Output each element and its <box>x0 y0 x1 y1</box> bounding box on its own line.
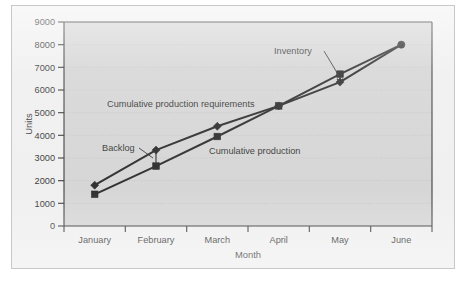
annotation-inventory: Inventory <box>274 46 312 56</box>
x-tick-label: January <box>78 235 111 245</box>
figure-card: 0 1000 2000 3000 4000 5000 6000 7000 800… <box>11 5 455 269</box>
annotation-cumulative-production: Cumulative production <box>209 146 300 156</box>
y-axis-tick-labels: 0 1000 2000 3000 4000 5000 6000 7000 800… <box>35 17 55 231</box>
y-tick-label: 0 <box>50 221 55 231</box>
y-axis-title: Units <box>23 113 34 135</box>
y-tick-label: 1000 <box>35 199 55 209</box>
chart-canvas: 0 1000 2000 3000 4000 5000 6000 7000 800… <box>12 6 456 270</box>
y-axis-ticks <box>58 22 64 226</box>
line-chart: 0 1000 2000 3000 4000 5000 6000 7000 800… <box>12 6 456 270</box>
plot-area-background <box>64 22 432 226</box>
x-axis-tick-labels: January February March April May June <box>78 235 411 245</box>
annotation-backlog: Backlog <box>102 143 135 153</box>
y-tick-label: 5000 <box>35 108 55 118</box>
y-tick-label: 8000 <box>35 40 55 50</box>
x-axis-title: Month <box>235 249 261 260</box>
x-tick-label: April <box>270 235 288 245</box>
screenshot-root: 0 1000 2000 3000 4000 5000 6000 7000 800… <box>0 0 466 281</box>
y-tick-label: 7000 <box>35 63 55 73</box>
x-tick-label: February <box>138 235 175 245</box>
x-axis-ticks <box>64 226 432 232</box>
y-tick-label: 3000 <box>35 153 55 163</box>
y-tick-label: 4000 <box>35 131 55 141</box>
y-tick-label: 6000 <box>35 85 55 95</box>
x-tick-label: May <box>331 235 349 245</box>
x-tick-label: June <box>391 235 411 245</box>
annotation-cumulative-production-requirements: Cumulative production requirements <box>107 99 255 109</box>
y-tick-label: 9000 <box>35 17 55 27</box>
y-tick-label: 2000 <box>35 176 55 186</box>
x-tick-label: March <box>205 235 231 245</box>
